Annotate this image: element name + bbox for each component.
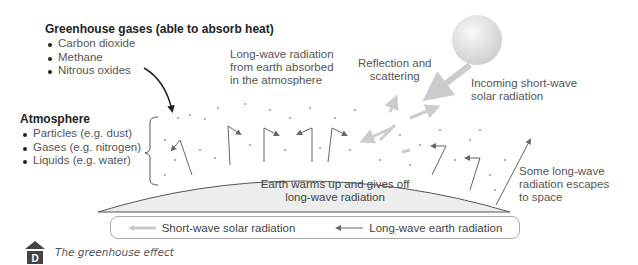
house-d-icon: D	[25, 241, 45, 264]
label-line: to space	[519, 191, 609, 204]
legend-long-wave: Long-wave earth radiation	[335, 222, 502, 234]
earth-label: Earth warms up and gives off long-wave r…	[230, 178, 440, 204]
atmosphere-item: Particles (e.g. dust)	[20, 127, 141, 141]
atmosphere-item: Liquids (e.g. water)	[20, 154, 141, 168]
label-line: Incoming short-wave	[471, 77, 577, 90]
label-line: Reflection and	[358, 57, 432, 70]
atmosphere-heading: Atmosphere	[20, 112, 141, 126]
atmosphere-block: Atmosphere Particles (e.g. dust) Gases (…	[20, 112, 141, 168]
label-line: Some long-wave	[519, 165, 609, 178]
long-wave-absorbed-label: Long-wave radiation from earth absorbed …	[230, 48, 334, 87]
label-line: from earth absorbed	[230, 61, 334, 74]
greenhouse-gases-heading: Greenhouse gases (able to absorb heat)	[45, 22, 274, 36]
label-line: Long-wave radiation	[230, 48, 334, 61]
sun-icon	[452, 15, 502, 65]
incoming-label: Incoming short-wave solar radiation	[471, 77, 577, 103]
caption: The greenhouse effect	[55, 246, 174, 258]
label-line: scattering	[358, 70, 432, 83]
label-line: long-wave radiation	[230, 191, 440, 204]
label-line: radiation escapes	[519, 178, 609, 191]
svg-text:D: D	[31, 253, 38, 264]
label-line: in the atmosphere	[230, 74, 334, 87]
legend-label: Short-wave solar radiation	[162, 222, 296, 234]
legend: Short-wave solar radiation Long-wave ear…	[110, 216, 520, 239]
escapes-label: Some long-wave radiation escapes to spac…	[519, 165, 609, 204]
atmosphere-item: Gases (e.g. nitrogen)	[20, 141, 141, 155]
label-line: solar radiation	[471, 90, 577, 103]
legend-short-wave: Short-wave solar radiation	[128, 222, 296, 234]
legend-label: Long-wave earth radiation	[369, 222, 502, 234]
reflection-label: Reflection and scattering	[358, 57, 432, 83]
label-line: Earth warms up and gives off	[230, 178, 440, 191]
